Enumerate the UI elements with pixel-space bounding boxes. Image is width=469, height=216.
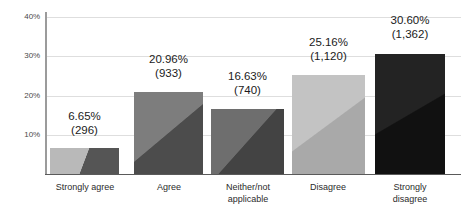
bar-disagree[interactable] — [292, 75, 365, 174]
value-label-strongly-agree: 6.65% (296) — [50, 110, 119, 137]
category-label-strongly-disagree: Strongly disagree — [365, 182, 455, 205]
bar-fill-disagree — [292, 75, 365, 174]
category-label-neither-not-applicable: Neither/not applicable — [203, 182, 293, 205]
value-pct-strongly-agree: 6.65% — [50, 110, 119, 124]
value-pct-disagree: 25.16% — [292, 36, 365, 50]
value-label-strongly-disagree: 30.60% (1,362) — [375, 14, 445, 41]
category-label-line: Neither/not — [203, 182, 293, 194]
category-label-line: applicable — [203, 194, 293, 206]
category-label-line: disagree — [365, 194, 455, 206]
value-pct-strongly-disagree: 30.60% — [375, 14, 445, 28]
y-tick-label-30: 30% — [6, 51, 40, 60]
value-count-agree: (933) — [134, 67, 203, 81]
bar-chart: 40% 30% 20% 10% 6.65% (296) 20.96% (933)… — [0, 0, 469, 216]
value-pct-agree: 20.96% — [134, 53, 203, 67]
bar-strongly-agree[interactable] — [50, 148, 119, 174]
category-label-disagree: Disagree — [283, 182, 373, 194]
category-label-line: Strongly — [365, 182, 455, 194]
x-axis-line — [45, 174, 461, 175]
category-label-line: Disagree — [283, 182, 373, 194]
y-tick-label-10: 10% — [6, 130, 40, 139]
y-tick-label-20: 20% — [6, 91, 40, 100]
value-pct-neither-not-applicable: 16.63% — [211, 70, 284, 84]
value-count-strongly-disagree: (1,362) — [375, 28, 445, 42]
bar-fill-strongly-agree — [50, 148, 119, 174]
bar-fill-agree — [134, 92, 203, 174]
value-count-disagree: (1,120) — [292, 50, 365, 64]
category-label-line: Agree — [124, 182, 214, 194]
value-count-strongly-agree: (296) — [50, 124, 119, 138]
value-label-neither-not-applicable: 16.63% (740) — [211, 70, 284, 97]
y-axis-labels: 40% 30% 20% 10% — [0, 0, 40, 216]
category-label-strongly-agree: Strongly agree — [40, 182, 130, 194]
bar-fill-neither-not-applicable — [211, 109, 284, 174]
value-label-agree: 20.96% (933) — [134, 53, 203, 80]
value-count-neither-not-applicable: (740) — [211, 84, 284, 98]
bar-neither-not-applicable[interactable] — [211, 109, 284, 174]
bar-agree[interactable] — [134, 92, 203, 174]
value-label-disagree: 25.16% (1,120) — [292, 36, 365, 63]
y-tick-label-40: 40% — [6, 12, 40, 21]
bar-fill-strongly-disagree — [375, 54, 445, 174]
bar-strongly-disagree[interactable] — [375, 54, 445, 174]
category-label-agree: Agree — [124, 182, 214, 194]
category-label-line: Strongly agree — [40, 182, 130, 194]
